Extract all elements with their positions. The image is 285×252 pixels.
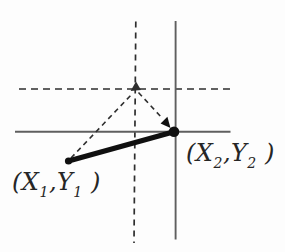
dashed-arrow-right — [139, 93, 163, 119]
segment-p1-p2 — [69, 132, 175, 161]
point-1-label: (X1,Y1 ) — [12, 168, 101, 200]
diagram-canvas: (X1,Y1 ) (X2,Y2 ) — [0, 0, 285, 252]
point-2-dot — [169, 127, 180, 138]
point-1-dot — [65, 157, 72, 164]
point-2-label: (X2,Y2 ) — [186, 139, 275, 171]
vector-diagram: (X1,Y1 ) (X2,Y2 ) — [0, 0, 285, 252]
arrowhead-apex — [131, 82, 141, 92]
arrowhead-point2 — [161, 117, 171, 128]
